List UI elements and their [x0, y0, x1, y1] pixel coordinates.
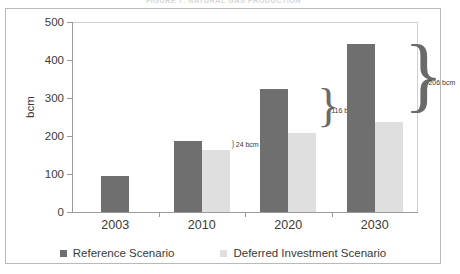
- x-axis-category-label: 2010: [188, 218, 216, 232]
- y-axis-tick: [67, 98, 72, 99]
- bar-reference-2003: [101, 176, 129, 212]
- y-axis-tick: [67, 136, 72, 137]
- x-axis-tick: [332, 212, 333, 217]
- bar-deferred-2030: [375, 122, 403, 212]
- y-axis-tick-label: 200: [45, 130, 64, 142]
- bar-deferred-2010: [202, 150, 230, 212]
- plot-area: 010020030040050020032010}24 bcm2020}116 …: [72, 22, 418, 212]
- y-axis-tick: [67, 174, 72, 175]
- chart-legend: Reference Scenario Deferred Investment S…: [5, 243, 441, 263]
- legend-label-reference: Reference Scenario: [73, 247, 175, 259]
- x-axis-category-label: 2030: [361, 218, 389, 232]
- gap-annotation-label: 24 bcm: [236, 141, 259, 148]
- y-axis-tick-label: 300: [45, 92, 64, 104]
- legend-swatch-icon-deferred: [220, 250, 227, 257]
- legend-label-deferred: Deferred Investment Scenario: [233, 247, 386, 259]
- y-axis-tick-label: 400: [45, 54, 64, 66]
- gap-annotation-label: 206 bcm: [428, 79, 455, 86]
- y-axis-tick-label: 100: [45, 168, 64, 180]
- bar-reference-2010: [174, 141, 202, 212]
- x-axis-tick: [245, 212, 246, 217]
- y-axis-tick: [67, 22, 72, 23]
- bar-reference-2020: [260, 89, 288, 213]
- y-axis-title: bcm: [24, 96, 36, 118]
- x-axis-category-label: 2020: [274, 218, 302, 232]
- legend-item-reference-scenario: Reference Scenario: [60, 247, 175, 259]
- legend-item-deferred-investment-scenario: Deferred Investment Scenario: [220, 247, 386, 259]
- y-axis-tick-label: 0: [58, 206, 64, 218]
- bar-reference-2030: [347, 44, 375, 212]
- y-axis-tick-label: 500: [45, 16, 64, 28]
- x-axis-category-label: 2003: [101, 218, 129, 232]
- x-axis-tick: [159, 212, 160, 217]
- y-axis-tick: [67, 60, 72, 61]
- legend-swatch-icon-reference: [60, 250, 67, 257]
- bar-deferred-2020: [288, 133, 316, 212]
- y-axis-line: [72, 22, 73, 212]
- brace-icon: }: [231, 139, 236, 149]
- gap-annotation-2030: }206 bcm: [404, 44, 460, 122]
- brace-icon: }: [404, 34, 443, 116]
- plot-top-border: [72, 22, 418, 23]
- figure-title: FIGURE 7: NATURAL GAS PRODUCTION: [0, 0, 447, 4]
- y-axis-tick: [67, 212, 72, 213]
